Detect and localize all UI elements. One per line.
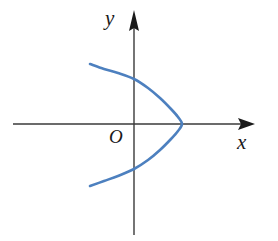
- y-axis-label: y: [105, 8, 114, 29]
- y-axis-arrow-icon: [129, 10, 139, 31]
- x-axis-label: x: [237, 132, 246, 153]
- coordinate-plane-svg: [0, 0, 278, 241]
- parabola-curve: [90, 64, 182, 186]
- parabola-figure: y x O: [0, 0, 278, 241]
- origin-label: O: [109, 127, 123, 146]
